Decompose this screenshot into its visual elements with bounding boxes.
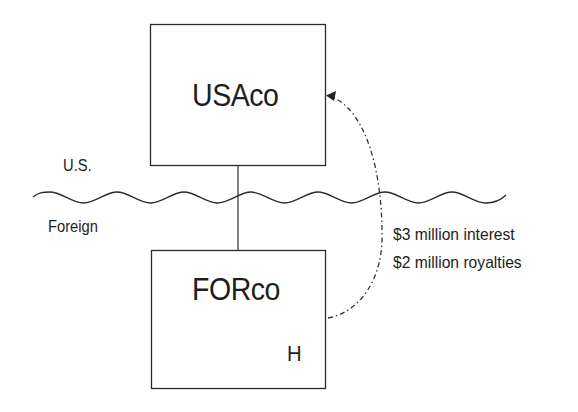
arrowhead-icon [326, 91, 336, 101]
payment-flow-arrow [328, 97, 382, 318]
flow-label-interest: $3 million interest [393, 226, 515, 243]
region-label-foreign: Foreign [48, 219, 98, 235]
forco-marker-h: H [287, 343, 302, 365]
region-label-us: U.S. [63, 158, 92, 174]
forco-label: FORco [192, 274, 280, 305]
border-wave-line [33, 192, 506, 203]
flow-label-royalties: $2 million royalties [393, 254, 522, 271]
usaco-label: USAco [192, 80, 278, 111]
